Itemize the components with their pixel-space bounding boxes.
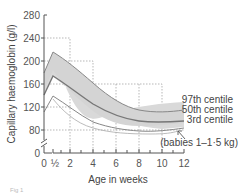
x-axis bbox=[44, 149, 184, 153]
x-tick-8: 8 bbox=[136, 158, 142, 169]
x-tick-6: 6 bbox=[113, 158, 119, 169]
x-tick-2: 2 bbox=[67, 158, 73, 169]
y-axis-title: Capillary haemoglobin (g/l) bbox=[6, 25, 17, 144]
x-tick-10: 10 bbox=[156, 158, 168, 169]
y-tick-280: 280 bbox=[23, 10, 40, 21]
y-tick-0: 0 bbox=[34, 148, 40, 159]
x-axis-title: Age in weeks bbox=[88, 174, 147, 185]
x-tick-0: 0 bbox=[41, 158, 47, 169]
y-tick-80: 80 bbox=[29, 125, 41, 136]
haemoglobin-chart: 280 240 200 160 120 80 0 0 ½ 2 4 6 8 10 … bbox=[0, 0, 241, 196]
y-tick-200: 200 bbox=[23, 56, 40, 67]
y-tick-labels: 280 240 200 160 120 80 0 bbox=[23, 10, 40, 159]
label-3rd-centile: 3rd centile bbox=[187, 114, 234, 125]
reference-lines bbox=[44, 38, 184, 153]
y-tick-120: 120 bbox=[23, 102, 40, 113]
x-tick-labels: 0 ½ 2 4 6 8 10 12 bbox=[41, 158, 190, 169]
figure-label: Fig 1 bbox=[10, 187, 24, 193]
label-small-babies: (babies 1–1·5 kg) bbox=[160, 137, 238, 148]
x-tick-4: 4 bbox=[90, 158, 96, 169]
x-tick-12: 12 bbox=[178, 158, 190, 169]
x-tick-half: ½ bbox=[51, 158, 60, 169]
y-tick-240: 240 bbox=[23, 33, 40, 44]
y-tick-160: 160 bbox=[23, 79, 40, 90]
